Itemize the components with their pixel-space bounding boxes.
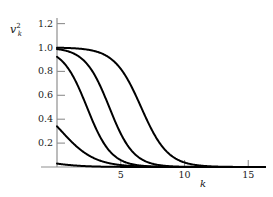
data-curve <box>57 126 265 167</box>
y-tick-label: 0.4 <box>26 113 53 124</box>
y-axis-label: v2k <box>10 22 22 38</box>
x-axis-label: k <box>200 178 206 189</box>
ticks-group <box>57 24 248 167</box>
chart-figure: v2k 510150.20.40.60.81.01.2 k <box>0 0 273 197</box>
y-tick-label: 1.2 <box>26 18 53 29</box>
y-tick-label: 1.0 <box>26 42 53 53</box>
data-curve <box>57 57 265 167</box>
x-tick-label: 5 <box>115 169 127 180</box>
x-tick-label: 15 <box>242 169 254 180</box>
x-tick-label: 10 <box>179 169 191 180</box>
y-tick-label: 0.2 <box>26 137 53 148</box>
y-tick-label: 0.6 <box>26 89 53 100</box>
y-tick-label: 0.8 <box>26 65 53 76</box>
y-axis-label-sub: k <box>18 30 22 38</box>
curves-group <box>57 48 265 167</box>
y-axis-label-sup: 2 <box>16 22 20 30</box>
